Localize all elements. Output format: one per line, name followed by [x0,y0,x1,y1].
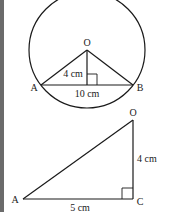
label-a: A [30,82,38,93]
side-ao [23,120,133,199]
diagram-right-triangle: O A C 4 cm 5 cm [11,107,157,212]
label-perpendicular-length: 4 cm [63,68,83,79]
right-angle-marker [87,74,97,85]
right-angle-marker [122,188,133,199]
label-vertical-length: 4 cm [137,153,157,164]
label-a: A [11,194,19,205]
label-b: B [137,82,144,93]
label-chord-length: 10 cm [75,88,100,99]
geometry-figure: O A B 4 cm 10 cm O A C 4 cm 5 cm [0,0,169,212]
label-c: C [137,196,144,207]
radius-ob [87,50,133,85]
label-o: O [129,107,136,118]
label-o: O [83,37,90,48]
label-base-length: 5 cm [70,202,90,212]
diagram-circle-chord: O A B 4 cm 10 cm [29,0,145,108]
